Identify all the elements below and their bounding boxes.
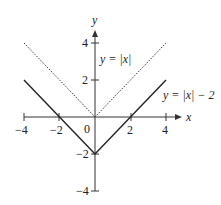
y-axis-arrow-icon [92, 30, 98, 37]
y-tick-label-2: 2 [82, 73, 88, 87]
x-tick-label-m4: −4 [15, 123, 28, 137]
x-axis-arrow-icon [175, 114, 182, 120]
y-tick-label-4: 4 [82, 36, 88, 50]
x-tick-label-2: 2 [127, 123, 133, 137]
curve-label-abs-x-minus-2: y = |x| − 2 [162, 88, 214, 102]
x-tick-label-m2: −2 [50, 123, 63, 137]
x-axis-label: x [185, 110, 192, 124]
absolute-value-graph: x y −4 −2 0 2 4 4 2 −2 −4 y = |x| y = |x… [0, 0, 221, 205]
y-tick-label-m4: −4 [76, 184, 89, 198]
y-axis-label: y [91, 13, 98, 27]
origin-label: 0 [84, 122, 90, 136]
curve-label-abs-x: y = |x| [99, 52, 131, 66]
y-tick-label-m2: −2 [76, 147, 89, 161]
x-tick-label-4: 4 [162, 123, 168, 137]
